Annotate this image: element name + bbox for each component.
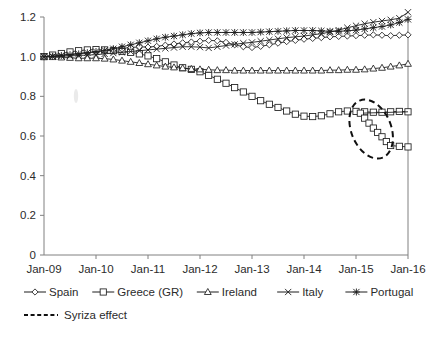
marker-asterisk bbox=[405, 16, 412, 23]
legend-item-portugal: Portugal bbox=[345, 286, 413, 298]
marker-asterisk bbox=[223, 29, 230, 36]
marker-diamond bbox=[292, 37, 298, 43]
marker-asterisk bbox=[292, 27, 299, 34]
marker-triangle bbox=[275, 67, 282, 73]
marker-triangle bbox=[93, 55, 100, 61]
legend-label: Syriza effect bbox=[64, 309, 128, 321]
marker-asterisk bbox=[127, 41, 134, 48]
marker-cross bbox=[405, 9, 411, 15]
marker-diamond bbox=[171, 41, 177, 47]
marker-square bbox=[275, 104, 281, 110]
marker-asterisk bbox=[75, 50, 82, 57]
marker-square bbox=[301, 113, 307, 119]
legend-label: Ireland bbox=[222, 286, 257, 298]
marker-asterisk bbox=[370, 24, 377, 31]
marker-diamond bbox=[162, 42, 168, 48]
marker-triangle bbox=[292, 67, 299, 73]
marker-square bbox=[154, 56, 160, 62]
marker-diamond bbox=[362, 32, 368, 38]
legend-label: Spain bbox=[49, 286, 78, 298]
y-tick-label: 1.0 bbox=[20, 51, 36, 63]
marker-square bbox=[258, 98, 264, 104]
marker-triangle bbox=[257, 67, 264, 73]
marker-asterisk bbox=[335, 28, 342, 35]
marker-asterisk bbox=[309, 27, 316, 34]
marker-square bbox=[128, 49, 134, 55]
marker-triangle bbox=[266, 67, 273, 73]
marker-diamond bbox=[310, 35, 316, 41]
marker-asterisk bbox=[67, 51, 74, 58]
marker-asterisk bbox=[353, 27, 360, 34]
marker-square bbox=[232, 85, 238, 91]
marker-asterisk bbox=[240, 29, 247, 36]
series-group bbox=[41, 9, 412, 150]
marker-triangle bbox=[249, 67, 256, 73]
legend-item-greece-gr: Greece (GR) bbox=[92, 286, 183, 298]
marker-asterisk bbox=[361, 25, 368, 32]
marker-diamond bbox=[388, 33, 394, 39]
marker-diamond bbox=[396, 32, 402, 38]
legend-label: Greece (GR) bbox=[117, 286, 183, 298]
marker-asterisk bbox=[110, 45, 117, 52]
line-chart: 00.20.40.60.81.01.2Jan-09Jan-10Jan-11Jan… bbox=[0, 0, 435, 343]
marker-square bbox=[240, 89, 246, 95]
marker-asterisk bbox=[84, 49, 91, 56]
marker-triangle bbox=[344, 66, 351, 72]
marker-square bbox=[284, 108, 290, 114]
x-tick-label: Jan-14 bbox=[286, 263, 322, 275]
x-tick-label: Jan-10 bbox=[78, 263, 113, 275]
marker-asterisk bbox=[387, 21, 394, 28]
marker-asterisk bbox=[171, 33, 178, 40]
legend-item-syriza-effect: Syriza effect bbox=[24, 309, 128, 321]
x-tick-label: Jan-15 bbox=[338, 263, 373, 275]
marker-asterisk bbox=[153, 35, 160, 42]
marker-square bbox=[327, 111, 333, 117]
marker-triangle bbox=[405, 60, 412, 66]
marker-square bbox=[370, 109, 376, 115]
y-tick-label: 0.2 bbox=[20, 209, 36, 221]
series-ireland bbox=[41, 53, 412, 73]
y-tick-label: 0.6 bbox=[20, 130, 36, 142]
x-axis: Jan-09Jan-10Jan-11Jan-12Jan-13Jan-14Jan-… bbox=[26, 255, 425, 275]
marker-square bbox=[223, 80, 229, 86]
marker-diamond bbox=[197, 38, 203, 44]
marker-square bbox=[310, 113, 316, 119]
marker-asterisk bbox=[93, 48, 100, 55]
marker-asterisk bbox=[162, 34, 169, 41]
marker-square bbox=[266, 101, 272, 107]
marker-diamond bbox=[214, 38, 220, 44]
marker-asterisk bbox=[301, 27, 308, 34]
marker-square bbox=[249, 93, 255, 99]
marker-asterisk bbox=[344, 27, 351, 34]
marker-diamond bbox=[370, 32, 376, 38]
marker-asterisk bbox=[197, 29, 204, 36]
marker-triangle bbox=[327, 67, 334, 73]
y-tick-label: 1.2 bbox=[20, 11, 36, 23]
legend-item-ireland: Ireland bbox=[197, 286, 257, 298]
y-axis: 00.20.40.60.81.01.2 bbox=[20, 11, 44, 261]
marker-asterisk bbox=[379, 23, 386, 30]
marker-asterisk bbox=[49, 53, 56, 60]
marker-asterisk bbox=[318, 27, 325, 34]
marker-triangle bbox=[223, 67, 230, 73]
marker-asterisk bbox=[327, 28, 334, 35]
marker-diamond bbox=[379, 32, 385, 38]
x-tick-label: Jan-12 bbox=[182, 263, 217, 275]
marker-square bbox=[405, 144, 411, 150]
marker-asterisk bbox=[145, 37, 152, 44]
marker-diamond bbox=[301, 36, 307, 42]
marker-asterisk bbox=[188, 30, 195, 37]
marker-diamond bbox=[405, 32, 411, 38]
x-tick-label: Jan-13 bbox=[234, 263, 269, 275]
marker-asterisk bbox=[205, 29, 212, 36]
marker-diamond bbox=[223, 39, 229, 45]
legend-item-italy: Italy bbox=[277, 286, 323, 298]
marker-square bbox=[318, 113, 324, 119]
marker-square bbox=[336, 109, 342, 115]
chart-legend: SpainGreece (GR)IrelandItalyPortugalSyri… bbox=[24, 286, 413, 321]
marker-triangle bbox=[283, 67, 290, 73]
marker-diamond bbox=[249, 44, 255, 50]
legend-item-spain: Spain bbox=[24, 286, 78, 298]
marker-diamond bbox=[206, 37, 212, 43]
legend-label: Italy bbox=[302, 286, 323, 298]
